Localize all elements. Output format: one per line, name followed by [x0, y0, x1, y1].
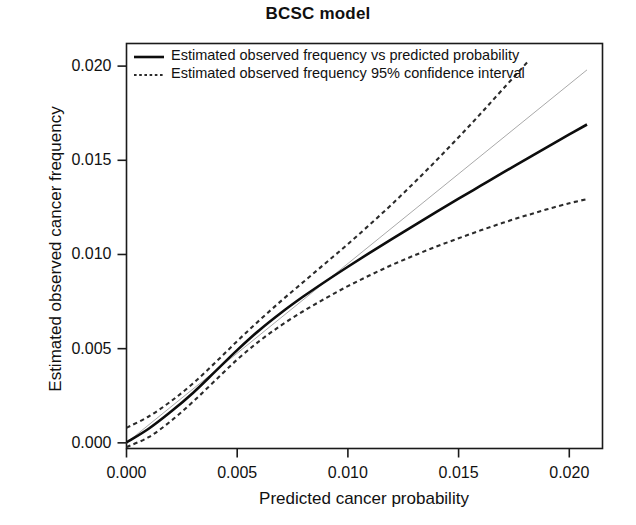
y-axis-title: Estimated observed cancer frequency [46, 39, 66, 459]
series-path-1 [127, 62, 528, 427]
x-tick-label-2: 0.010 [308, 465, 388, 481]
legend-entry-dotted: Estimated observed frequency 95% confide… [134, 64, 525, 81]
x-axis-title: Predicted cancer probability [126, 489, 602, 509]
legend-entry-solid: Estimated observed frequency vs predicte… [134, 46, 525, 63]
x-tick-label-1: 0.005 [197, 465, 277, 481]
chart-legend: Estimated observed frequency vs predicte… [134, 46, 525, 82]
legend-label-confidence-interval: Estimated observed frequency 95% confide… [171, 65, 525, 81]
legend-key-dotted-line [134, 67, 164, 79]
series-path-3 [127, 70, 588, 443]
legend-key-solid-line [134, 49, 164, 61]
chart-figure: BCSC model 0.0000.0050.0100.0150.020 0.0… [0, 0, 636, 525]
x-tick-label-0: 0.000 [87, 465, 167, 481]
x-axis-ticks [127, 449, 570, 458]
x-tick-label-3: 0.015 [419, 465, 499, 481]
legend-label-observed-vs-predicted: Estimated observed frequency vs predicte… [171, 47, 519, 63]
series-path-0 [127, 125, 588, 443]
data-series-layer [127, 62, 588, 447]
x-tick-label-4: 0.020 [529, 465, 609, 481]
y-axis-ticks [118, 66, 127, 443]
